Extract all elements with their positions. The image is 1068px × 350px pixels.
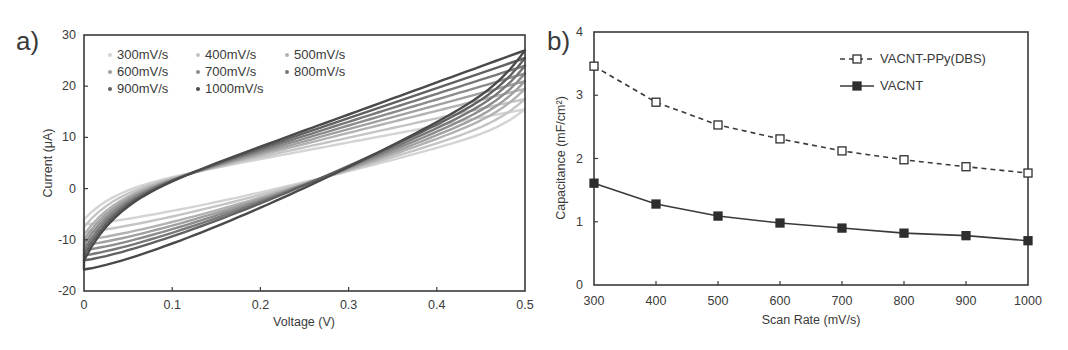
legend-label: VACNT (880, 78, 923, 93)
legend-marker (108, 53, 112, 57)
legend-label: 1000mV/s (205, 81, 264, 96)
data-point-marker (900, 229, 908, 237)
y-axis-title-b: Capacitance (mF/cm²) (554, 96, 568, 220)
y-tick-label: 10 (62, 130, 76, 144)
legend-label: 500mV/s (294, 47, 346, 62)
legend-label: 300mV/s (117, 47, 169, 62)
legend-item: 700mV/s (196, 64, 257, 79)
y-tick-label: 20 (62, 79, 76, 93)
x-tick-label: 0.5 (516, 298, 533, 312)
x-axis-title-b: Scan Rate (mV/s) (762, 313, 861, 327)
legend-marker (196, 53, 200, 57)
x-axis-title-a: Voltage (V) (273, 315, 335, 329)
data-point-marker (962, 163, 970, 171)
x-tick-label: 1000 (1014, 294, 1042, 308)
data-point-marker (714, 212, 722, 220)
figure: a) -20-100102030 00.10.20.30.40.5 Voltag… (0, 0, 1068, 350)
y-tick-label: 0 (576, 278, 583, 292)
legend-item: VACNT (840, 78, 923, 93)
series-line (594, 66, 1028, 173)
cv-curve (84, 99, 525, 232)
cv-curve (84, 89, 525, 240)
x-tick-label: 0.3 (340, 298, 357, 312)
legend-item: 800mV/s (285, 64, 346, 79)
legend-item: 900mV/s (108, 81, 169, 96)
legend-item: 400mV/s (196, 47, 257, 62)
y-tick-label: 0 (69, 182, 76, 196)
data-point-marker (714, 121, 722, 129)
y-tick-label: 2 (576, 152, 583, 166)
legend-marker (108, 87, 112, 91)
legend-label: 900mV/s (117, 81, 169, 96)
legend-marker (853, 55, 861, 63)
data-point-marker (776, 219, 784, 227)
x-tick-label: 0.2 (252, 298, 269, 312)
data-point-marker (776, 135, 784, 143)
data-point-marker (652, 200, 660, 208)
legend-item: VACNT-PPy(DBS) (840, 51, 986, 66)
data-point-marker (838, 224, 846, 232)
legend-marker (196, 87, 200, 91)
panel-label-b: b) (547, 26, 570, 56)
legend-label: 800mV/s (294, 64, 346, 79)
data-series-b (590, 62, 1032, 245)
y-tick-label: -20 (58, 284, 76, 298)
legend-label: 700mV/s (205, 64, 257, 79)
data-point-marker (900, 156, 908, 164)
data-point-marker (590, 179, 598, 187)
series-vacnt (590, 179, 1032, 245)
legend-label: VACNT-PPy(DBS) (880, 51, 986, 66)
data-point-marker (838, 147, 846, 155)
data-point-marker (962, 232, 970, 240)
data-point-marker (590, 62, 598, 70)
data-point-marker (1024, 169, 1032, 177)
legend-marker (285, 53, 289, 57)
legend-label: 600mV/s (117, 64, 169, 79)
legend-marker (196, 70, 200, 74)
chart-panel-b: b) 01234 3004005006007008009001000 Scan … (547, 25, 1042, 327)
chart-panel-a: a) -20-100102030 00.10.20.30.40.5 Voltag… (16, 26, 534, 329)
y-tick-label: 30 (62, 28, 76, 42)
series-vacnt-ppy-dbs- (590, 62, 1032, 177)
x-tick-label: 500 (708, 294, 729, 308)
y-axis-title-a: Current (μA) (41, 128, 55, 197)
legend-b: VACNT-PPy(DBS)VACNT (840, 51, 986, 93)
y-tick-label: 1 (576, 215, 583, 229)
y-tick-label: -10 (58, 233, 76, 247)
x-tick-label: 400 (646, 294, 667, 308)
y-tick-label: 3 (576, 88, 583, 102)
legend-marker (853, 82, 861, 90)
x-tick-label: 800 (894, 294, 915, 308)
legend-marker (108, 70, 112, 74)
x-tick-label: 0 (81, 298, 88, 312)
x-tick-label: 300 (584, 294, 605, 308)
x-tick-label: 600 (770, 294, 791, 308)
legend-a: 300mV/s400mV/s500mV/s600mV/s700mV/s800mV… (108, 47, 346, 96)
data-point-marker (1024, 237, 1032, 245)
legend-item: 600mV/s (108, 64, 169, 79)
legend-item: 1000mV/s (196, 81, 264, 96)
legend-item: 300mV/s (108, 47, 169, 62)
panel-label-a: a) (16, 26, 39, 56)
x-tick-label: 900 (956, 294, 977, 308)
legend-item: 500mV/s (285, 47, 346, 62)
x-tick-label: 700 (832, 294, 853, 308)
legend-label: 400mV/s (205, 47, 257, 62)
x-tick-label: 0.4 (428, 298, 445, 312)
legend-marker (285, 70, 289, 74)
y-tick-label: 4 (576, 25, 583, 39)
x-tick-label: 0.1 (164, 298, 181, 312)
data-point-marker (652, 98, 660, 106)
plot-frame-b (594, 32, 1028, 285)
